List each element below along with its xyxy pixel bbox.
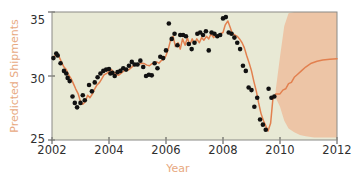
data-point [169,37,174,42]
data-point [141,65,146,70]
chart-svg: 2002 2004 2006 2008 2010 2012 35 30 25 Y… [0,0,361,183]
x-tick-label-2008: 2008 [208,143,237,157]
data-point [249,88,254,93]
data-point [95,75,100,80]
data-point [255,95,260,100]
y-tick-label-25: 25 [30,132,45,146]
data-point [51,56,56,61]
data-point [55,53,60,58]
data-point [164,48,169,53]
x-tick-label-2006: 2006 [151,143,180,157]
chart-figure: 2002 2004 2006 2008 2010 2012 35 30 25 Y… [0,0,361,183]
data-point [241,63,246,68]
y-axis-tick-labels: 35 30 25 [30,13,45,146]
data-point [192,40,197,45]
data-point [266,87,271,92]
data-point [135,62,140,67]
data-point [124,67,129,72]
data-point [189,47,194,52]
data-point [258,117,263,122]
data-point [261,122,266,127]
data-point [184,34,189,39]
data-point [155,66,160,71]
data-point [138,58,143,63]
x-axis-label: Year [165,162,190,175]
data-point [127,63,132,68]
x-tick-label-2010: 2010 [265,143,294,157]
data-point [58,61,63,66]
data-point [252,104,257,109]
data-point [263,127,268,132]
data-point [87,83,92,88]
data-point [161,56,166,61]
data-point [187,42,192,47]
data-point [107,67,112,72]
data-point [204,29,209,34]
data-point [224,15,229,20]
data-point [167,21,172,26]
data-point [112,74,117,79]
data-point [90,89,95,94]
data-point [244,69,249,74]
data-point [149,73,154,78]
data-point [80,93,85,98]
data-point [82,98,87,103]
data-point [67,79,72,84]
data-point [152,61,157,66]
data-point [64,71,69,76]
data-point [238,47,243,52]
data-point [78,101,83,106]
data-point [73,101,78,106]
data-point [232,35,237,40]
data-point [235,40,240,45]
y-axis-label: Predicted Shipments [8,19,21,133]
data-point [75,105,80,110]
x-axis-tick-labels: 2002 2004 2006 2008 2010 2012 [37,143,351,157]
data-point [70,94,75,99]
x-tick-label-2012: 2012 [322,143,351,157]
data-point [172,31,177,36]
data-point [206,48,211,53]
forecast-confidence-band [276,12,337,137]
data-point [92,80,97,85]
data-point [201,33,206,38]
data-point [175,43,180,48]
data-point [272,94,277,99]
y-tick-label-30: 30 [30,72,45,86]
y-tick-label-35: 35 [30,13,45,27]
x-tick-label-2004: 2004 [94,143,123,157]
data-point [218,33,223,38]
data-point [229,31,234,36]
